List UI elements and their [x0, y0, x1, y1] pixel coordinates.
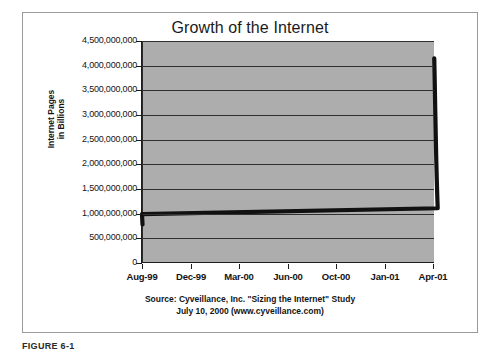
y-axis-tick — [136, 115, 142, 116]
x-axis-tick-label: Aug-99 — [115, 271, 169, 282]
source-line-1: Source: Cyveillance, Inc. "Sizing the In… — [23, 294, 477, 306]
y-axis-tick — [136, 214, 142, 215]
y-axis-tick-labels: 4,500,000,0004,000,000,0003,500,000,0003… — [33, 13, 137, 332]
y-axis-tick-label: 3,500,000,000 — [41, 84, 137, 94]
x-axis-tick — [385, 264, 386, 269]
y-axis-tick — [136, 66, 142, 67]
y-axis-tick-label: 0 — [41, 257, 137, 267]
x-axis-tick-label: Apr-01 — [406, 271, 460, 282]
y-axis-tick-label: 3,000,000,000 — [41, 109, 137, 119]
y-axis-tick — [136, 189, 142, 190]
y-axis-tick — [136, 238, 142, 239]
y-axis-tick — [136, 41, 142, 42]
gridline — [143, 140, 434, 141]
x-axis-tick-label: Oct-00 — [309, 271, 363, 282]
y-axis-tick-label: 2,000,000,000 — [41, 158, 137, 168]
x-axis-tick — [288, 264, 289, 269]
y-axis-tick-label: 2,500,000,000 — [41, 134, 137, 144]
gridline — [143, 41, 434, 42]
gridline — [143, 115, 434, 116]
gridline — [143, 66, 434, 67]
x-axis-tick-label: Jun-00 — [261, 271, 315, 282]
y-axis-tick-label: 1,000,000,000 — [41, 208, 137, 218]
series-line-internet-pages — [143, 41, 434, 263]
y-axis-tick — [136, 140, 142, 141]
y-axis-tick-label: 1,500,000,000 — [41, 183, 137, 193]
source-caption: Source: Cyveillance, Inc. "Sizing the In… — [23, 294, 477, 317]
gridline — [143, 238, 434, 239]
y-axis-tick-label: 4,500,000,000 — [41, 35, 137, 45]
x-axis-tick-label: Mar-00 — [212, 271, 266, 282]
gridline — [143, 189, 434, 190]
y-axis-tick-label: 500,000,000 — [41, 232, 137, 242]
y-axis-tick-label: 4,000,000,000 — [41, 60, 137, 70]
gridline — [143, 214, 434, 215]
y-axis-tick — [136, 164, 142, 165]
x-axis-tick — [433, 264, 434, 269]
x-axis-line — [143, 262, 434, 263]
x-axis-tick — [336, 264, 337, 269]
gridline — [143, 90, 434, 91]
x-axis-tick — [142, 264, 143, 269]
plot-area — [142, 41, 434, 263]
figure-number-caption: FIGURE 6-1 — [22, 341, 75, 351]
x-axis-tick — [239, 264, 240, 269]
x-axis-tick-label: Jan-01 — [358, 271, 412, 282]
x-axis-tick — [191, 264, 192, 269]
gridline — [143, 164, 434, 165]
figure-frame: Growth of the Internet Internet Pages in… — [22, 12, 478, 333]
x-axis-tick-label: Dec-99 — [164, 271, 218, 282]
y-axis-tick — [136, 90, 142, 91]
y-axis-tick — [136, 263, 142, 264]
source-line-2: July 10, 2000 (www.cyveillance.com) — [23, 306, 477, 318]
